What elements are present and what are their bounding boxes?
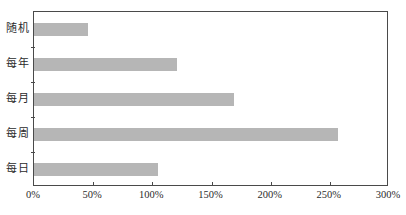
x-axis-tick-5 [330,182,331,186]
y-axis: 随机每年每月每周每日 [0,11,31,186]
y-axis-label-3: 每周 [6,116,29,151]
x-axis-label-3: 150% [198,188,223,202]
bar-3 [34,128,338,141]
bar-chart: 随机每年每月每周每日 0%50%100%150%200%250%300% [0,0,406,215]
plot-area [33,11,388,186]
bar-0 [34,23,88,36]
y-axis-tick-4 [31,152,35,153]
bar-4 [34,163,158,176]
y-axis-label-0: 随机 [6,11,29,46]
y-axis-label-4: 每日 [6,151,29,186]
x-axis-tick-4 [271,182,272,186]
x-axis-label-0: 0% [26,188,40,202]
x-axis-tick-2 [152,182,153,186]
x-axis-label-5: 250% [317,188,342,202]
y-axis-tick-3 [31,117,35,118]
y-axis-label-2: 每月 [6,81,29,116]
x-axis: 0%50%100%150%200%250%300% [0,188,406,204]
x-axis-label-4: 200% [257,188,282,202]
x-axis-label-2: 100% [139,188,164,202]
y-axis-tick-1 [31,47,35,48]
x-axis-tick-3 [212,182,213,186]
x-axis-tick-1 [93,182,94,186]
y-axis-label-1: 每年 [6,46,29,81]
bar-2 [34,93,234,106]
y-axis-tick-2 [31,82,35,83]
x-axis-label-6: 300% [376,188,401,202]
x-axis-label-1: 50% [83,188,102,202]
bar-1 [34,58,177,71]
